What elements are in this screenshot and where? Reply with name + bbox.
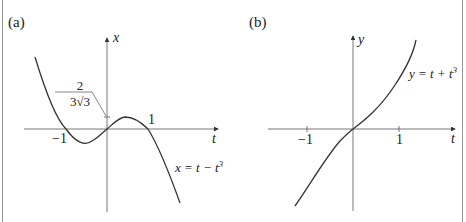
panel-a-tick-neg1: −1 [52,131,67,147]
panel-b-axes [268,36,455,211]
curve-b [295,40,416,206]
equation-a-text: x = t − t [175,160,219,175]
panel-a-axes [24,38,218,212]
panel-a-equation: x = t − t3 [175,159,223,176]
equation-a-exponent: 3 [219,159,224,169]
equation-b-text: y = t + t [409,66,453,81]
equation-b-exponent: 3 [453,65,458,75]
panel-b-t-axis-label: t [451,131,455,147]
panel-b-equation: y = t + t3 [409,65,457,82]
fraction-denominator: 3√3 [66,94,94,109]
plots-svg [0,0,466,222]
panel-b-tick-1: 1 [396,132,403,148]
panel-b-tick-neg1: −1 [298,132,313,148]
panel-b-label: (b) [249,14,267,31]
fraction-numerator: 2 [66,78,94,93]
panel-a-label: (a) [8,14,25,31]
local-max-annotation: 2 3√3 [66,78,94,109]
curve-a [35,57,180,203]
panel-b-y-axis-label: y [358,32,364,48]
panel-a-t-axis-label: t [212,131,216,147]
panel-a-tick-1: 1 [148,112,155,128]
panel-a-x-axis-label: x [113,30,119,46]
